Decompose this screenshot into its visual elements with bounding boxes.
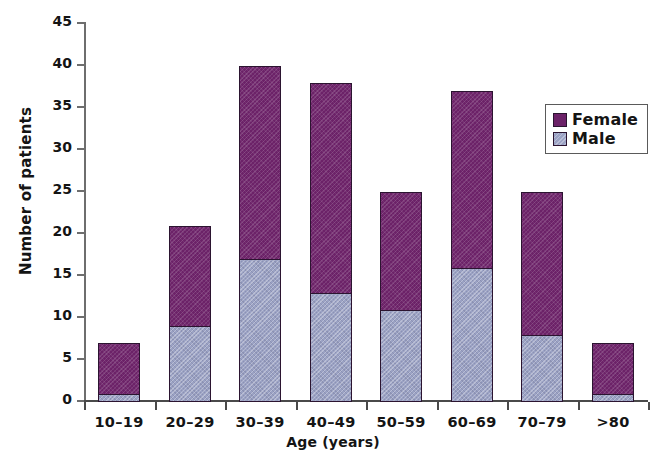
y-axis-tick-label: 0 <box>62 391 72 407</box>
y-axis-tick: 25 <box>77 190 84 192</box>
x-axis-tick <box>507 402 509 410</box>
bar-segment-male[interactable] <box>169 326 211 402</box>
bar-group[interactable] <box>239 66 281 402</box>
chart-figure: Number of patients 051015202530354045 10… <box>0 0 666 463</box>
bar-segment-female[interactable] <box>310 83 352 293</box>
y-axis-tick: 0 <box>77 400 84 402</box>
y-axis-tick: 15 <box>77 274 84 276</box>
bar-segment-female[interactable] <box>592 343 634 393</box>
y-axis-tick: 30 <box>77 148 84 150</box>
y-axis-tick: 20 <box>77 232 84 234</box>
x-axis-tick <box>155 402 157 410</box>
x-axis-tick <box>366 402 368 410</box>
bar-segment-female[interactable] <box>239 66 281 259</box>
x-axis-tick-label: >80 <box>568 414 658 430</box>
legend-item-female[interactable]: Female <box>553 110 638 129</box>
x-axis-tick <box>648 402 650 410</box>
bar-segment-male[interactable] <box>521 335 563 402</box>
bar-segment-female[interactable] <box>169 226 211 327</box>
y-axis-tick-label: 35 <box>53 97 72 113</box>
y-axis-tick-label: 10 <box>53 307 72 323</box>
bar-segment-male[interactable] <box>592 394 634 402</box>
y-axis-tick: 10 <box>77 316 84 318</box>
x-axis-tick <box>84 402 86 410</box>
bar-segment-male[interactable] <box>98 394 140 402</box>
bar-segment-female[interactable] <box>521 192 563 335</box>
y-axis-tick-label: 5 <box>62 349 72 365</box>
y-axis-tick: 40 <box>77 64 84 66</box>
y-axis-line <box>84 22 86 400</box>
chart-legend: FemaleMale <box>545 104 648 154</box>
legend-swatch-icon <box>553 113 567 127</box>
legend-swatch-icon <box>553 132 567 146</box>
y-axis-tick-label: 45 <box>53 13 72 29</box>
y-axis-tick: 35 <box>77 106 84 108</box>
bar-group[interactable] <box>169 226 211 402</box>
legend-label: Female <box>572 110 638 129</box>
x-axis-tick <box>437 402 439 410</box>
y-axis-tick: 45 <box>77 22 84 24</box>
bar-group[interactable] <box>98 343 140 402</box>
y-axis-tick-label: 40 <box>53 55 72 71</box>
bar-segment-male[interactable] <box>310 293 352 402</box>
bar-segment-female[interactable] <box>98 343 140 393</box>
plot-area: 051015202530354045 10–1920–2930–3940–495… <box>84 18 648 404</box>
bar-segment-female[interactable] <box>380 192 422 310</box>
x-axis-title: Age (years) <box>0 434 666 450</box>
bar-group[interactable] <box>310 83 352 402</box>
bar-segment-male[interactable] <box>239 259 281 402</box>
bar-segment-female[interactable] <box>451 91 493 267</box>
bar-group[interactable] <box>521 192 563 402</box>
bar-group[interactable] <box>592 343 634 402</box>
y-axis-tick: 5 <box>77 358 84 360</box>
x-axis-tick <box>225 402 227 410</box>
legend-label: Male <box>572 129 616 148</box>
bar-group[interactable] <box>380 192 422 402</box>
y-axis-tick-label: 15 <box>53 265 72 281</box>
legend-item-male[interactable]: Male <box>553 129 638 148</box>
x-axis-tick <box>578 402 580 410</box>
bar-segment-male[interactable] <box>451 268 493 402</box>
x-axis-tick <box>296 402 298 410</box>
y-axis-tick-label: 30 <box>53 139 72 155</box>
y-axis-title: Number of patients <box>17 81 35 301</box>
y-axis-tick-label: 25 <box>53 181 72 197</box>
bar-group[interactable] <box>451 91 493 402</box>
bar-segment-male[interactable] <box>380 310 422 402</box>
y-axis-tick-label: 20 <box>53 223 72 239</box>
